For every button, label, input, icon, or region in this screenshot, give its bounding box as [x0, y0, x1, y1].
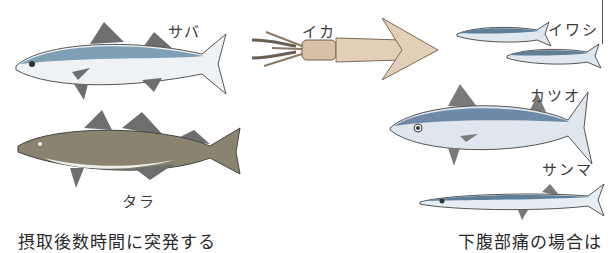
label-iwashi: イワシ: [548, 18, 599, 39]
label-ika: イカ: [302, 20, 336, 41]
caption-left: 摂取後数時間に突発する: [18, 228, 216, 253]
squid-illustration: [252, 18, 442, 80]
label-tara: タラ: [122, 190, 156, 211]
cod-illustration: [14, 106, 244, 190]
saury-illustration: [418, 182, 608, 222]
caption-right: 下腹部痛の場合は: [458, 228, 602, 253]
divider-line: [602, 0, 603, 44]
label-katsuo: カツオ: [530, 84, 581, 105]
label-saba: サバ: [168, 20, 201, 41]
label-sanma: サンマ: [542, 158, 593, 179]
